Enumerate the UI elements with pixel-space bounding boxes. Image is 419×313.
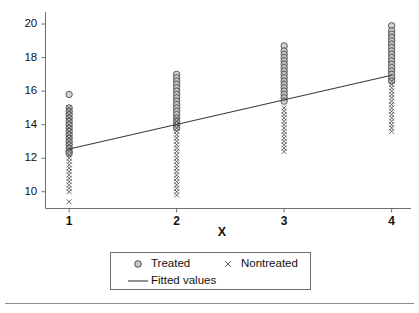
- data-point-nontreated: [67, 189, 72, 194]
- footer-divider: [5, 303, 414, 304]
- plot-area: [0, 0, 419, 215]
- data-point-nontreated: [174, 193, 179, 198]
- series-treated: [66, 23, 395, 157]
- y-tick-label-14: 14: [15, 119, 37, 131]
- y-tick-label-18: 18: [15, 52, 37, 64]
- legend-label-nontreated: Nontreated: [241, 257, 298, 270]
- data-point-nontreated: [389, 129, 394, 134]
- plot-canvas: [0, 0, 419, 215]
- scatter-plot-figure: 101214161820 1234 X Treated Non: [0, 0, 419, 313]
- y-tick-label-20: 20: [15, 18, 37, 30]
- circle-marker-icon: [125, 256, 151, 272]
- legend-label-treated: Treated: [151, 257, 190, 270]
- data-point-nontreated: [282, 149, 287, 154]
- series-fitted-values: [69, 75, 392, 149]
- x-axis-title: X: [45, 225, 399, 239]
- line-key-icon: [125, 273, 151, 289]
- legend: Treated Nontreated Fitted values: [110, 252, 311, 290]
- y-tick-label-16: 16: [15, 85, 37, 97]
- legend-row-bottom: Fitted values: [111, 272, 310, 289]
- fitted-line: [69, 75, 392, 149]
- legend-row-top: Treated Nontreated: [111, 255, 310, 272]
- legend-label-fitted-values: Fitted values: [151, 274, 216, 287]
- y-tick-label-10: 10: [15, 186, 37, 198]
- legend-entry-nontreated: Nontreated: [215, 255, 298, 272]
- data-point-treated: [66, 91, 72, 97]
- y-axis-tick-labels: 101214161820: [9, 0, 37, 215]
- legend-entry-treated: Treated: [125, 255, 190, 272]
- series-nontreated: [67, 79, 395, 205]
- legend-entry-fitted-values: Fitted values: [125, 272, 216, 289]
- data-point-nontreated: [67, 199, 72, 204]
- y-tick-label-12: 12: [15, 152, 37, 164]
- x-marker-icon: [215, 256, 241, 272]
